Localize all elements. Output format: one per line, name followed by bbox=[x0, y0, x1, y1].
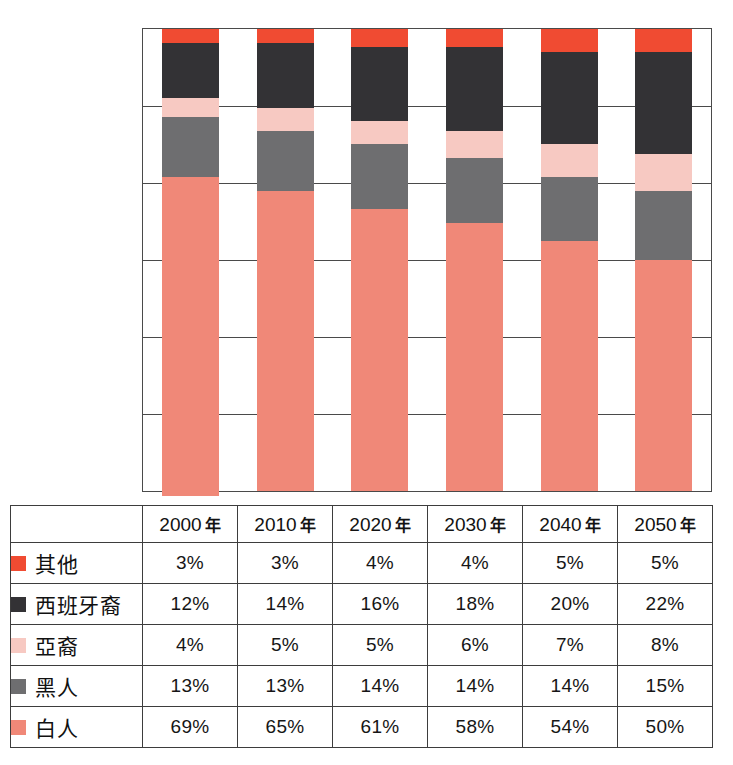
stacked-bar[interactable] bbox=[635, 29, 692, 491]
table-cell-value: 3% bbox=[143, 543, 238, 584]
header-year-value: 2000 bbox=[159, 514, 201, 535]
bar-segment[interactable] bbox=[446, 158, 503, 223]
bar-segment[interactable] bbox=[257, 43, 314, 108]
legend-item-白人[interactable]: 白人 bbox=[11, 707, 143, 748]
legend-item-亞裔[interactable]: 亞裔 bbox=[11, 625, 143, 666]
legend-label: 西班牙裔 bbox=[35, 589, 121, 619]
bar-column bbox=[332, 29, 427, 491]
bar-segment[interactable] bbox=[446, 223, 503, 491]
bar-segment[interactable] bbox=[351, 144, 408, 209]
header-year-suffix: 年 bbox=[205, 517, 221, 534]
table-cell-value: 69% bbox=[143, 707, 238, 748]
table-cell-value: 58% bbox=[428, 707, 523, 748]
table-cell-value: 14% bbox=[523, 666, 618, 707]
table-cell-value: 50% bbox=[618, 707, 713, 748]
table-cell-value: 16% bbox=[333, 584, 428, 625]
header-year-value: 2040 bbox=[539, 514, 581, 535]
bar-segment[interactable] bbox=[541, 177, 598, 242]
legend-swatch-icon bbox=[11, 597, 26, 612]
table-cell-value: 3% bbox=[238, 543, 333, 584]
header-year-suffix: 年 bbox=[395, 517, 411, 534]
bar-segment[interactable] bbox=[635, 191, 692, 260]
table-cell-value: 18% bbox=[428, 584, 523, 625]
stacked-bar[interactable] bbox=[162, 29, 219, 491]
bar-column bbox=[143, 29, 238, 491]
table-cell-value: 14% bbox=[238, 584, 333, 625]
table-cell-value: 8% bbox=[618, 625, 713, 666]
header-year-value: 2010 bbox=[254, 514, 296, 535]
table-corner-cell bbox=[11, 506, 143, 543]
legend-item-其他[interactable]: 其他 bbox=[11, 543, 143, 584]
bar-segment[interactable] bbox=[541, 144, 598, 176]
bar-segment[interactable] bbox=[257, 108, 314, 131]
table-cell-value: 20% bbox=[523, 584, 618, 625]
legend-swatch-icon bbox=[11, 679, 26, 694]
table-row: 亞裔4%5%5%6%7%8% bbox=[11, 625, 713, 666]
table-row: 白人69%65%61%58%54%50% bbox=[11, 707, 713, 748]
chart-page: 2000年2010年2020年2030年2040年2050年 其他3%3%4%4… bbox=[0, 0, 733, 765]
bar-segment[interactable] bbox=[162, 43, 219, 98]
bar-segment[interactable] bbox=[351, 29, 408, 47]
data-table: 2000年2010年2020年2030年2040年2050年 其他3%3%4%4… bbox=[10, 505, 713, 748]
stacked-bar-chart-plot-area bbox=[142, 28, 712, 492]
table-cell-value: 13% bbox=[238, 666, 333, 707]
legend-item-黑人[interactable]: 黑人 bbox=[11, 666, 143, 707]
stacked-bar[interactable] bbox=[541, 29, 598, 491]
table-header-year-2010: 2010年 bbox=[238, 506, 333, 543]
table-row: 黑人13%13%14%14%14%15% bbox=[11, 666, 713, 707]
legend-swatch-icon bbox=[11, 638, 26, 653]
chart-bars-container bbox=[143, 29, 711, 491]
bar-segment[interactable] bbox=[446, 131, 503, 159]
table-cell-value: 15% bbox=[618, 666, 713, 707]
table-row: 其他3%3%4%4%5%5% bbox=[11, 543, 713, 584]
bar-column bbox=[238, 29, 333, 491]
bar-column bbox=[522, 29, 617, 491]
legend-item-西班牙裔[interactable]: 西班牙裔 bbox=[11, 584, 143, 625]
legend-label: 黑人 bbox=[35, 671, 78, 701]
bar-segment[interactable] bbox=[541, 29, 598, 52]
bar-segment[interactable] bbox=[635, 52, 692, 154]
header-year-suffix: 年 bbox=[490, 517, 506, 534]
bar-segment[interactable] bbox=[351, 209, 408, 491]
legend-label: 白人 bbox=[35, 712, 78, 742]
table-header-year-2040: 2040年 bbox=[523, 506, 618, 543]
table-cell-value: 4% bbox=[143, 625, 238, 666]
bar-segment[interactable] bbox=[635, 29, 692, 52]
bar-segment[interactable] bbox=[162, 177, 219, 496]
stacked-bar[interactable] bbox=[257, 29, 314, 491]
stacked-bar[interactable] bbox=[446, 29, 503, 491]
bar-segment[interactable] bbox=[162, 98, 219, 116]
table-header-year-2050: 2050年 bbox=[618, 506, 713, 543]
table-cell-value: 22% bbox=[618, 584, 713, 625]
bar-segment[interactable] bbox=[351, 121, 408, 144]
bar-segment[interactable] bbox=[541, 52, 598, 144]
legend-swatch-icon bbox=[11, 720, 26, 735]
table-body: 其他3%3%4%4%5%5%西班牙裔12%14%16%18%20%22%亞裔4%… bbox=[11, 543, 713, 748]
table-cell-value: 54% bbox=[523, 707, 618, 748]
bar-segment[interactable] bbox=[162, 29, 219, 43]
table-cell-value: 12% bbox=[143, 584, 238, 625]
bar-segment[interactable] bbox=[635, 154, 692, 191]
table-header-year-2020: 2020年 bbox=[333, 506, 428, 543]
header-year-value: 2030 bbox=[444, 514, 486, 535]
bar-column bbox=[427, 29, 522, 491]
table-cell-value: 13% bbox=[143, 666, 238, 707]
header-year-suffix: 年 bbox=[300, 517, 316, 534]
header-year-value: 2050 bbox=[634, 514, 676, 535]
bar-segment[interactable] bbox=[446, 29, 503, 47]
bar-segment[interactable] bbox=[635, 260, 692, 491]
legend-label: 亞裔 bbox=[35, 630, 78, 660]
bar-segment[interactable] bbox=[257, 29, 314, 43]
bar-column bbox=[616, 29, 711, 491]
table-row: 西班牙裔12%14%16%18%20%22% bbox=[11, 584, 713, 625]
stacked-bar[interactable] bbox=[351, 29, 408, 491]
bar-segment[interactable] bbox=[541, 241, 598, 490]
bar-segment[interactable] bbox=[162, 117, 219, 177]
bar-segment[interactable] bbox=[257, 191, 314, 491]
bar-segment[interactable] bbox=[257, 131, 314, 191]
bar-segment[interactable] bbox=[446, 47, 503, 130]
table-cell-value: 5% bbox=[238, 625, 333, 666]
header-year-suffix: 年 bbox=[680, 517, 696, 534]
table-cell-value: 65% bbox=[238, 707, 333, 748]
bar-segment[interactable] bbox=[351, 47, 408, 121]
